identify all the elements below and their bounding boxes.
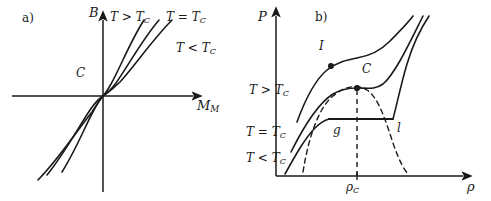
panel-b-label: b) <box>315 11 327 23</box>
critical-point-marker <box>354 85 360 91</box>
panel-b-plot <box>245 0 491 201</box>
b-t-less-main: T < T <box>246 151 280 165</box>
t-greater-sub: C <box>144 15 150 25</box>
figure-root: a) B MM C T > TC T = TC T < TC <box>0 0 491 201</box>
panel-b-label-t-less-tc: T < TC <box>246 152 286 165</box>
panel-a-x-axis-label-sub: M <box>210 104 219 114</box>
panel-a-critical-point-label: C <box>76 67 85 79</box>
gas-branch-label: g <box>333 124 341 136</box>
t-equal-sub: C <box>200 15 206 25</box>
rho-c-sub: C <box>353 185 359 195</box>
panel-b-label-t-equal-tc: T = TC <box>246 126 286 139</box>
panel-a: a) B MM C T > TC T = TC T < TC <box>0 0 245 201</box>
inflection-point-label: I <box>319 40 324 52</box>
t-greater-main: T > T <box>110 10 144 24</box>
panel-b-label-t-greater-tc: T > TC <box>249 84 289 97</box>
liquid-branch-label: l <box>397 122 401 134</box>
b-t-greater-sub: C <box>283 88 289 98</box>
inflection-point-marker <box>328 63 334 69</box>
panel-a-label: a) <box>22 12 34 24</box>
t-less-main: T < T <box>176 41 210 55</box>
rho-c-main: ρ <box>346 180 353 194</box>
t-equal-main: T = T <box>166 10 200 24</box>
curve-t-less-tc <box>38 20 172 180</box>
panel-b-critical-point-label: C <box>362 63 371 75</box>
panel-a-y-axis-label: B <box>89 6 99 19</box>
panel-a-label-t-equal-tc: T = TC <box>166 11 206 24</box>
panel-a-x-axis-label: MM <box>197 99 219 114</box>
panel-b: b) P ρ ρC I C g l T > TC T = TC T < TC <box>245 0 491 201</box>
rho-c-tick-label: ρC <box>346 181 359 194</box>
b-t-greater-main: T > T <box>249 83 283 97</box>
t-less-sub: C <box>210 46 216 56</box>
b-t-less-sub: C <box>280 156 286 166</box>
panel-a-label-t-greater-tc: T > TC <box>110 11 150 24</box>
b-t-equal-main: T = T <box>246 125 280 139</box>
panel-a-x-axis-label-main: M <box>197 98 210 113</box>
panel-b-x-axis-label: ρ <box>467 180 475 193</box>
panel-a-label-t-less-tc: T < TC <box>176 42 216 55</box>
coexistence-dome-curve <box>303 87 409 175</box>
b-t-equal-sub: C <box>280 130 286 140</box>
panel-b-y-axis-label: P <box>258 10 267 23</box>
curve-b-t-less-tc-gas-branch <box>285 119 329 174</box>
